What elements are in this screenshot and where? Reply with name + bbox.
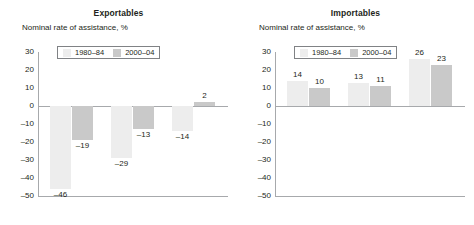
bar-2000-04[interactable]	[72, 106, 93, 140]
bar-group: 2623	[406, 52, 455, 196]
bar-group: 1410	[284, 52, 333, 196]
legend-label: 1980–84	[312, 49, 341, 57]
y-tick-label: –50	[21, 192, 34, 200]
bar-groups-exportables: –46–19–29–13–142	[38, 52, 228, 196]
y-tick-label: –30	[258, 156, 271, 164]
y-axis-title-exportables: Nominal rate of assistance, %	[22, 23, 128, 32]
bar-1980-84[interactable]	[111, 106, 132, 158]
y-tick-label: 0	[30, 102, 34, 110]
y-tick-label: 30	[25, 48, 34, 56]
bar-value-label: –13	[133, 131, 154, 139]
bar-value-label: 14	[287, 71, 308, 79]
bar-1980-84[interactable]	[172, 106, 193, 131]
bar-2000-04[interactable]	[133, 106, 154, 129]
bar-value-label: 10	[309, 78, 330, 86]
y-tick-label: –40	[21, 174, 34, 182]
legend-label: 2000–04	[125, 49, 154, 57]
y-tick-label: 10	[262, 84, 271, 92]
y-tick-label: –30	[21, 156, 34, 164]
bar-value-label: –29	[111, 160, 132, 168]
bar-value-label: –46	[50, 191, 71, 199]
y-tick-label: –10	[258, 120, 271, 128]
y-tick-label: –50	[258, 192, 271, 200]
y-tick-label: 30	[262, 48, 271, 56]
bar-group: –29–13	[108, 52, 157, 196]
panel-title-exportables: Exportables	[0, 8, 237, 18]
y-tick-label: 0	[267, 102, 271, 110]
plot-area-exportables: 3020100–10–20–30–40–50 –46–19–29–13–142 …	[38, 52, 228, 196]
legend-swatch-icon	[63, 49, 71, 57]
bar-value-label: –19	[72, 142, 93, 150]
y-tick-label: 20	[25, 66, 34, 74]
bar-1980-84[interactable]	[348, 83, 369, 106]
bar-group: 1311	[345, 52, 394, 196]
legend-label: 2000–04	[362, 49, 391, 57]
panel-title-importables: Importables	[237, 8, 474, 18]
legend-swatch-icon	[113, 49, 121, 57]
legend-item[interactable]: 1980–84	[63, 49, 104, 57]
bar-value-label: 2	[194, 92, 215, 100]
bar-groups-importables: 141013112623	[275, 52, 465, 196]
x-axis-line	[275, 196, 465, 197]
bar-value-label: –14	[172, 133, 193, 141]
bar-2000-04[interactable]	[309, 88, 330, 106]
y-axis-title-importables: Nominal rate of assistance, %	[259, 23, 365, 32]
y-tick-label: –10	[21, 120, 34, 128]
legend-exportables: 1980–842000–04	[57, 46, 160, 59]
bar-value-label: 26	[409, 49, 430, 57]
y-tick-label: 20	[262, 66, 271, 74]
legend-label: 1980–84	[75, 49, 104, 57]
legend-swatch-icon	[300, 49, 308, 57]
legend-item[interactable]: 1980–84	[300, 49, 341, 57]
y-tick-label: –20	[258, 138, 271, 146]
bar-value-label: 11	[370, 76, 391, 84]
legend-importables: 1980–842000–04	[294, 46, 397, 59]
bar-2000-04[interactable]	[194, 102, 215, 106]
plot-area-importables: 3020100–10–20–30–40–50 141013112623 Agri…	[275, 52, 465, 196]
legend-item[interactable]: 2000–04	[113, 49, 154, 57]
y-tick-label: –20	[21, 138, 34, 146]
bar-1980-84[interactable]	[409, 59, 430, 106]
bar-1980-84[interactable]	[50, 106, 71, 189]
y-tick-label: –40	[258, 174, 271, 182]
bar-value-label: 13	[348, 73, 369, 81]
panel-importables: Importables Nominal rate of assistance, …	[237, 0, 474, 225]
chart-figure: Exportables Nominal rate of assistance, …	[0, 0, 474, 225]
y-tick-label: 10	[25, 84, 34, 92]
legend-item[interactable]: 2000–04	[350, 49, 391, 57]
bar-value-label: 23	[431, 55, 452, 63]
bar-group: –46–19	[47, 52, 96, 196]
bar-group: –142	[169, 52, 218, 196]
panel-exportables: Exportables Nominal rate of assistance, …	[0, 0, 237, 225]
legend-swatch-icon	[350, 49, 358, 57]
bar-2000-04[interactable]	[370, 86, 391, 106]
bar-2000-04[interactable]	[431, 65, 452, 106]
bar-1980-84[interactable]	[287, 81, 308, 106]
